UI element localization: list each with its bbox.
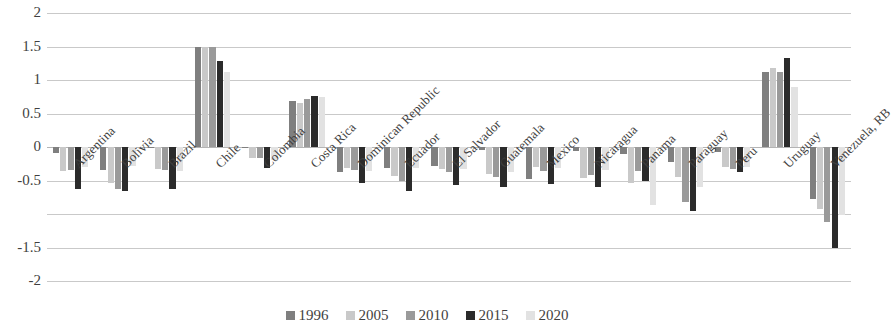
legend-label: 2010 (419, 308, 449, 323)
y-axis-tick-label: -0.5 (0, 173, 41, 188)
bar (777, 72, 783, 147)
legend-label: 1996 (299, 308, 329, 323)
y-axis-tick-label: 2 (0, 5, 41, 20)
bar (722, 147, 728, 167)
bar (202, 47, 208, 147)
y-axis-tick-label: -1.5 (0, 240, 41, 255)
bar (195, 47, 201, 148)
bar (628, 147, 634, 183)
bar (304, 99, 310, 147)
y-axis-tick-label: 1 (0, 72, 41, 87)
legend-swatch-icon (286, 311, 295, 320)
bar (439, 147, 445, 169)
legend-label: 2020 (539, 308, 569, 323)
bar (682, 147, 688, 202)
legend-item[interactable]: 2010 (406, 308, 449, 323)
legend-item[interactable]: 2020 (526, 308, 569, 323)
bar (217, 61, 223, 147)
bar (108, 147, 114, 183)
legend-label: 2015 (479, 308, 509, 323)
legend-label: 2005 (359, 308, 389, 323)
bar (810, 147, 816, 199)
bar (242, 147, 248, 148)
bar (311, 96, 317, 147)
bar (533, 147, 539, 167)
bar (155, 147, 161, 169)
bar (486, 147, 492, 174)
bar (344, 147, 350, 168)
chart-legend: 19962005201020152020 (0, 308, 854, 323)
legend-item[interactable]: 2005 (346, 308, 389, 323)
bar (526, 147, 532, 179)
plot-area (47, 13, 851, 281)
bar (53, 147, 59, 153)
legend-swatch-icon (526, 311, 535, 320)
bar (762, 72, 768, 147)
y-axis-tick-label: 0 (0, 139, 41, 154)
bar (319, 97, 325, 147)
bar (817, 147, 823, 209)
y-axis-tick-label: 0.5 (0, 106, 41, 121)
bar (115, 147, 121, 189)
y-axis-tick-label: -2 (0, 273, 41, 288)
bar (580, 147, 586, 178)
legend-item[interactable]: 2015 (466, 308, 509, 323)
y-axis-tick-label: 1.5 (0, 39, 41, 54)
bar (675, 147, 681, 177)
bar (391, 147, 397, 176)
bar (60, 147, 66, 171)
gridline (47, 281, 851, 282)
bar (791, 87, 797, 147)
bar (249, 147, 255, 158)
bar (224, 72, 230, 147)
legend-swatch-icon (466, 311, 475, 320)
bar (209, 47, 215, 147)
legend-swatch-icon (406, 311, 415, 320)
bar (784, 58, 790, 147)
bar (770, 68, 776, 147)
legend-item[interactable]: 1996 (286, 308, 329, 323)
legend-swatch-icon (346, 311, 355, 320)
